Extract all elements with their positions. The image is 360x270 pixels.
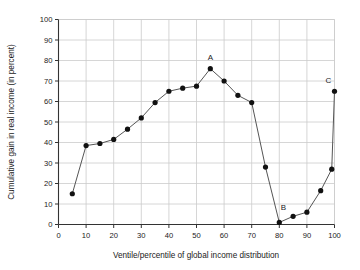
x-tick-label: 0 <box>56 231 60 240</box>
data-point-marker <box>222 78 227 83</box>
x-axis-title: Ventile/percentile of global income dist… <box>113 251 280 260</box>
point-annotation-label-a: A <box>208 53 214 62</box>
x-tick-label: 70 <box>247 231 255 240</box>
y-tick-label: 0 <box>48 220 52 229</box>
y-tick-label: 60 <box>44 97 52 106</box>
x-tick-label: 100 <box>328 231 341 240</box>
data-point-marker <box>84 143 89 148</box>
data-point-marker <box>332 89 337 94</box>
y-tick-label: 100 <box>40 15 53 24</box>
y-axis-title: Cumulative gain in real income (in perce… <box>7 44 16 200</box>
data-point-marker <box>329 167 334 172</box>
y-tick-label: 50 <box>44 118 52 127</box>
data-point-marker <box>111 137 116 142</box>
data-point-marker <box>249 100 254 105</box>
data-point-marker <box>235 93 240 98</box>
y-tick-label: 80 <box>44 56 52 65</box>
data-point-marker <box>166 89 171 94</box>
point-annotation-label-c: C <box>326 76 332 85</box>
data-point-marker <box>97 141 102 146</box>
point-annotation-label-b: B <box>281 203 286 212</box>
x-tick-label: 80 <box>275 231 283 240</box>
y-tick-label: 40 <box>44 138 52 147</box>
data-point-marker <box>125 127 130 132</box>
x-tick-label: 40 <box>165 231 173 240</box>
data-point-marker <box>194 84 199 89</box>
data-point-marker <box>291 214 296 219</box>
x-tick-label: 60 <box>220 231 228 240</box>
x-tick-label: 90 <box>303 231 311 240</box>
elephant-curve-chart: 0102030405060708090100 01020304050607080… <box>0 0 360 270</box>
data-point-marker <box>208 66 213 71</box>
chart-background <box>0 0 360 270</box>
x-tick-label: 50 <box>192 231 200 240</box>
data-point-marker <box>180 86 185 91</box>
x-tick-label: 30 <box>137 231 145 240</box>
y-tick-label: 90 <box>44 36 52 45</box>
y-tick-label: 10 <box>44 200 52 209</box>
data-point-marker <box>304 210 309 215</box>
y-tick-label: 30 <box>44 159 52 168</box>
x-tick-label: 10 <box>82 231 90 240</box>
data-point-marker <box>263 165 268 170</box>
y-tick-label: 20 <box>44 179 52 188</box>
data-point-marker <box>318 188 323 193</box>
y-tick-label: 70 <box>44 77 52 86</box>
data-point-marker <box>139 115 144 120</box>
data-point-marker <box>153 100 158 105</box>
x-tick-label: 20 <box>109 231 117 240</box>
data-point-marker <box>277 220 282 225</box>
chart-canvas: 0102030405060708090100 01020304050607080… <box>0 0 360 270</box>
data-point-marker <box>70 191 75 196</box>
